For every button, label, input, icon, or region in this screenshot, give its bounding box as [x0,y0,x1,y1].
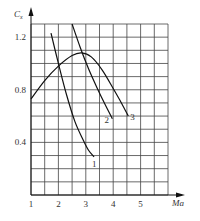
x-tick-label: 5 [138,199,143,209]
x-tick-label: 2 [56,199,61,209]
grid [31,24,168,195]
x-tick-label: 4 [111,199,116,209]
x-tick-label: 3 [84,199,89,209]
curves [31,24,128,157]
x-axis-arrow-icon [176,193,185,198]
curve-labels: 123 [92,112,135,169]
chart: 123450.40.81.2 123 Ma Cx [0,0,200,221]
curve-label-2: 2 [104,115,109,125]
y-axis-arrow-icon [29,7,34,16]
curve-label-1: 1 [92,159,97,169]
y-axis-label: Cx [14,9,23,20]
curve-2 [72,24,112,119]
x-axis-label: Ma [171,198,184,208]
tick-labels: 123450.40.81.2 [15,32,144,209]
x-tick-label: 1 [29,199,34,209]
curve-3 [31,53,128,116]
curve-label-3: 3 [130,112,135,122]
y-tick-label: 0.8 [15,85,27,95]
y-tick-label: 1.2 [15,32,26,42]
y-tick-label: 0.4 [15,137,27,147]
curve-1 [51,33,94,157]
